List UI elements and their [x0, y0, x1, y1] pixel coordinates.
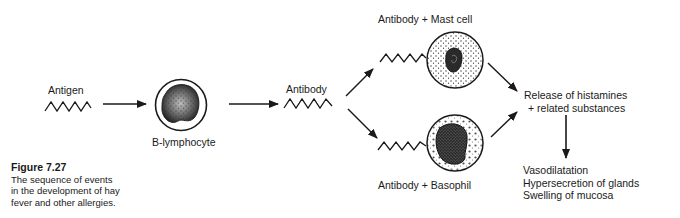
- release-line-2: + related substances: [524, 102, 627, 115]
- arrow-basophil-to-release: [491, 112, 517, 137]
- caption-line-1: The sequence of events: [11, 174, 120, 186]
- antibody-mast-cell-label: Antibody + Mast cell: [378, 13, 472, 26]
- release-line-1: Release of histamines: [524, 89, 627, 102]
- antibody-label: Antibody: [286, 83, 327, 96]
- antigen-zigzag-icon: [45, 102, 91, 111]
- effect-vasodilatation: Vasodilatation: [523, 164, 639, 177]
- arrow-antibody-to-basophil: [348, 109, 377, 138]
- effect-hypersecretion: Hypersecretion of glands: [523, 177, 639, 190]
- b-lymphocyte-cell-icon: [156, 80, 207, 131]
- arrow-mast-cell-to-release: [488, 63, 517, 91]
- caption-line-2: in the development of hay: [11, 185, 120, 197]
- figure-number: Figure 7.27: [11, 162, 120, 174]
- release-label: Release of histamines + related substanc…: [524, 89, 627, 114]
- mast-cell-antibody-zigzag-icon: [380, 54, 426, 62]
- basophil-cell-icon: [427, 115, 483, 171]
- effects-list: Vasodilatation Hypersecretion of glands …: [523, 164, 639, 202]
- b-lymphocyte-label: B-lymphocyte: [152, 136, 216, 149]
- antigen-label: Antigen: [48, 84, 84, 97]
- caption-line-3: fever and other allergies.: [11, 197, 120, 209]
- basophil-antibody-zigzag-icon: [378, 142, 426, 150]
- antibody-basophil-label: Antibody + Basophil: [378, 179, 471, 192]
- effect-swelling: Swelling of mucosa: [523, 189, 639, 202]
- antibody-zigzag-icon: [284, 99, 332, 108]
- arrow-antibody-to-mast-cell: [346, 69, 373, 96]
- figure-caption: Figure 7.27 The sequence of events in th…: [11, 162, 120, 208]
- mast-cell-icon: [427, 32, 483, 88]
